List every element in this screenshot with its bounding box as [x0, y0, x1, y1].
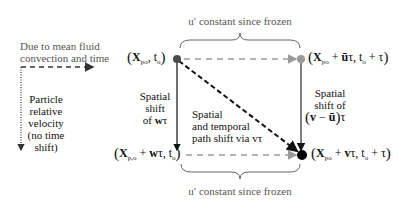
left-edge-label-line1: Spatial — [136, 90, 174, 102]
legend-particle-line2: relative — [26, 105, 66, 117]
node-bottom-left-label: (Xp,o + wτ, to) — [114, 147, 181, 159]
right-edge-label-line1: Spatial — [307, 87, 353, 99]
node-bottom-right-label: (Xpo + vτ, to + τ) — [311, 147, 391, 159]
right-edge-label-expr: (v − ū)τ — [305, 111, 345, 123]
node-top-right-label: (Xpo + ūτ, to + τ) — [308, 51, 388, 63]
node-top-right-dot — [297, 55, 305, 63]
bottom-brace — [181, 164, 300, 179]
node-top-left-label: (Xpo, to) — [127, 51, 166, 63]
left-edge-label-line3: of wτ — [136, 114, 174, 126]
diagonal-label-line1: Spatial — [192, 108, 223, 120]
top-brace — [180, 33, 300, 48]
diagonal-label-line2: and temporal — [192, 120, 250, 132]
legend-particle-line4: (no time — [26, 129, 66, 141]
legend-particle-line5: shift) — [26, 141, 66, 153]
legend-mean-convection-line2: convection and time — [20, 52, 109, 64]
legend-particle-line3: velocity — [26, 117, 66, 129]
diagonal-label-line3: path shift via vτ — [192, 132, 262, 144]
node-top-left-dot — [173, 55, 181, 63]
legend-particle-line1: Particle — [26, 93, 66, 105]
bottom-brace-label: u′ constant since frozen — [170, 185, 310, 197]
legend-mean-convection-line1: Due to mean fluid — [20, 40, 100, 52]
top-brace-label: u′ constant since frozen — [170, 15, 310, 27]
left-edge-label-line2: shift — [136, 102, 174, 114]
node-bottom-right-dot — [297, 150, 307, 160]
